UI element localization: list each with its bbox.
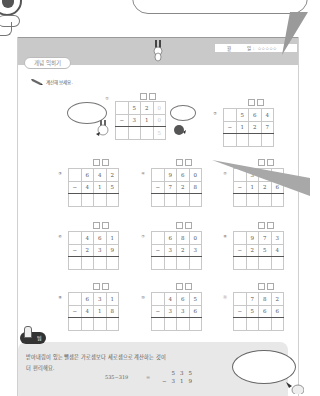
borrow-boxes [93, 283, 109, 290]
answer-cell[interactable] [189, 194, 202, 207]
digit-cell: 5 [106, 181, 119, 194]
borrow-box[interactable] [258, 222, 265, 229]
problem-number: ③ [57, 171, 63, 177]
answer-cell[interactable] [116, 127, 129, 140]
digit-cell: 7 [164, 181, 177, 194]
digit-cell: 9 [246, 232, 259, 245]
borrow-box[interactable] [267, 283, 274, 290]
problem-4: ④ 960 −728 [140, 159, 206, 214]
answer-cell[interactable] [246, 194, 259, 207]
borrow-box[interactable] [93, 283, 100, 290]
answer-cell[interactable] [271, 318, 284, 331]
answer-cell[interactable] [236, 134, 249, 147]
subtraction-grid: 461 −239 [68, 231, 119, 270]
answer-cell[interactable] [234, 194, 247, 207]
borrow-box[interactable] [93, 159, 100, 166]
answer-cell[interactable] [164, 194, 177, 207]
answer-cell[interactable] [106, 318, 119, 331]
problem-9: ⑨ 631 −418 [57, 283, 123, 338]
rabbit-mascot-icon [24, 326, 32, 338]
borrow-boxes [176, 283, 192, 290]
digit-cell [259, 169, 272, 182]
digit-cell: 8 [189, 181, 202, 194]
speech-bubble-right [170, 105, 196, 121]
problem-number: ⑤ [222, 171, 228, 177]
borrow-box[interactable] [258, 283, 265, 290]
answer-cell[interactable] [106, 194, 119, 207]
date-separator: : [253, 46, 255, 51]
answer-cell[interactable] [69, 194, 82, 207]
answer-cell[interactable] [177, 194, 190, 207]
answer-cell[interactable]: 5 [153, 127, 166, 140]
answer-cell[interactable] [177, 257, 190, 270]
digit-cell: 4 [271, 244, 284, 257]
answer-cell[interactable] [189, 257, 202, 270]
borrow-box[interactable] [149, 93, 156, 100]
answer-cell[interactable] [259, 318, 272, 331]
digit: 3 [172, 377, 176, 385]
borrow-box[interactable] [102, 222, 109, 229]
answer-cell[interactable] [261, 134, 274, 147]
problem-5: ⑤ 3 −126 [222, 159, 288, 214]
borrow-box[interactable] [257, 99, 264, 106]
subtraction-grid: 680 −323 [151, 231, 202, 270]
answer-cell[interactable] [234, 257, 247, 270]
borrow-box[interactable] [140, 93, 147, 100]
borrow-box[interactable] [185, 283, 192, 290]
answer-cell[interactable] [259, 257, 272, 270]
answer-cell[interactable] [81, 257, 94, 270]
digit-cell: 1 [236, 121, 249, 134]
digit-cell [152, 232, 165, 245]
answer-cell[interactable] [94, 194, 107, 207]
borrow-box[interactable] [248, 99, 255, 106]
answer-cell[interactable] [246, 318, 259, 331]
answer-cell[interactable] [164, 318, 177, 331]
digit-cell: 5 [236, 109, 249, 122]
answer-cell[interactable] [224, 134, 237, 147]
answer-cell[interactable] [81, 194, 94, 207]
answer-cell[interactable] [152, 194, 165, 207]
problem-number: ⑪ [222, 295, 228, 301]
answer-cell[interactable] [246, 257, 259, 270]
borrow-box[interactable] [258, 159, 265, 166]
borrow-box[interactable] [93, 222, 100, 229]
borrow-box[interactable] [176, 159, 183, 166]
borrow-box[interactable] [102, 283, 109, 290]
answer-cell[interactable] [106, 257, 119, 270]
answer-cell[interactable] [152, 257, 165, 270]
answer-cell[interactable] [164, 257, 177, 270]
answer-cell[interactable] [69, 318, 82, 331]
borrow-box[interactable] [267, 159, 274, 166]
borrow-box[interactable] [176, 222, 183, 229]
borrow-boxes [93, 222, 109, 229]
answer-cell[interactable] [234, 318, 247, 331]
digit-cell: 8 [106, 305, 119, 318]
answer-cell[interactable] [271, 257, 284, 270]
borrow-box[interactable] [176, 283, 183, 290]
answer-cell[interactable] [152, 318, 165, 331]
problem-11: ⑪ 782 −566 [222, 283, 288, 338]
digit-cell: 7 [246, 293, 259, 306]
answer-cell[interactable] [177, 318, 190, 331]
borrow-box[interactable] [185, 159, 192, 166]
digit-cell: 5 [259, 244, 272, 257]
answer-cell[interactable] [249, 134, 262, 147]
problem-6: ⑥ 461 −239 [57, 222, 123, 277]
star-rating[interactable]: ☆☆☆☆☆ [258, 46, 277, 51]
borrow-box[interactable] [102, 159, 109, 166]
borrow-boxes [93, 159, 109, 166]
borrow-box[interactable] [267, 222, 274, 229]
digit-cell: 4 [94, 169, 107, 182]
answer-cell[interactable] [189, 318, 202, 331]
answer-cell[interactable] [69, 257, 82, 270]
tip-example-horizontal: 535−319 [105, 374, 128, 380]
problem-number: ④ [140, 171, 146, 177]
answer-cell[interactable] [271, 194, 284, 207]
answer-cell[interactable] [259, 194, 272, 207]
answer-cell[interactable] [141, 127, 154, 140]
answer-cell[interactable] [128, 127, 141, 140]
answer-cell[interactable] [94, 318, 107, 331]
borrow-box[interactable] [185, 222, 192, 229]
answer-cell[interactable] [81, 318, 94, 331]
answer-cell[interactable] [94, 257, 107, 270]
